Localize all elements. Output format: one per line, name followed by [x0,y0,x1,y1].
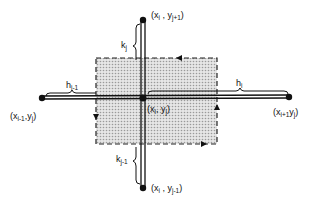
node-left [39,95,45,101]
label-bottom-node: (xi , yj-1) [151,183,182,195]
label-left-node: (xi-1,yj) [10,111,36,123]
brace-k-bottom [133,147,140,184]
brace-k-top [133,24,140,60]
node-bottom [140,185,146,191]
label-top-node: (xi , yj+1) [151,10,184,22]
label-right-node: (xi+1yj) [273,107,298,119]
control-volume [96,58,217,144]
horizontal-line-bottom [42,98,289,99]
label-k-top: kj [121,40,127,52]
node-top [140,17,146,23]
label-k-bottom: kj-1 [116,154,128,166]
horizontal-line-top [42,95,289,96]
node-right [286,94,292,100]
node-center [140,95,147,102]
label-h-right: hi [236,78,242,89]
grid-cell-diagram: (xi , yj+1) (xi, yj) (xi-1,yj) (xi+1yj) … [0,0,314,205]
label-h-left: hi-1 [66,80,79,91]
